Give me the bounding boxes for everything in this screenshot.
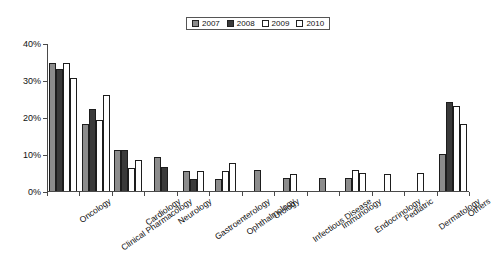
bar-2009-endocrinology bbox=[352, 170, 359, 191]
legend-label-2010: 2010 bbox=[306, 19, 324, 28]
bar-group bbox=[177, 44, 209, 191]
x-axis-line bbox=[47, 191, 469, 192]
bar-2008-cardiology bbox=[121, 150, 128, 191]
bar-2007-neurology bbox=[154, 157, 161, 191]
y-tick-label: 20% bbox=[23, 114, 41, 123]
bar-2007-others bbox=[439, 154, 446, 191]
bar-2007-urology bbox=[254, 170, 261, 191]
y-tick-label: 30% bbox=[23, 77, 41, 86]
bar-2009-infectious-disease bbox=[290, 174, 297, 191]
bar-2010-clinical-pharmacology bbox=[103, 95, 110, 191]
bar-2008-oncology bbox=[56, 69, 63, 191]
bar-group bbox=[209, 44, 241, 191]
bar-group bbox=[47, 44, 79, 191]
bar-2010-cardiology bbox=[135, 160, 142, 191]
bar-2007-cardiology bbox=[114, 150, 121, 191]
bar-group bbox=[79, 44, 111, 191]
bar-2010-dermatology bbox=[417, 173, 424, 191]
bar-group bbox=[112, 44, 144, 191]
x-label-oncology: Oncology bbox=[78, 196, 113, 225]
bar-group bbox=[307, 44, 339, 191]
white-fill-swatch bbox=[296, 20, 303, 27]
bar-2007-immunology bbox=[319, 178, 326, 191]
legend-entry-2009: 2009 bbox=[262, 19, 290, 28]
bar-2007-infectious-disease bbox=[283, 178, 290, 191]
bar-2010-oncology bbox=[70, 78, 77, 191]
bar-2009-cardiology bbox=[128, 168, 135, 191]
bar-2010-ophthalmology bbox=[229, 163, 236, 191]
legend-label-2009: 2009 bbox=[272, 19, 290, 28]
bar-2009-pediatric bbox=[384, 174, 391, 191]
bar-2007-ophthalmology bbox=[215, 179, 222, 191]
bar-2010-gastroenterology bbox=[197, 171, 204, 191]
bar-2009-oncology bbox=[63, 63, 70, 191]
bar-group bbox=[144, 44, 176, 191]
plot-area: 0%10%20%30%40% bbox=[47, 44, 469, 192]
bar-group bbox=[274, 44, 306, 191]
bar-2007-gastroenterology bbox=[183, 171, 190, 191]
bar-2010-endocrinology bbox=[359, 173, 366, 191]
dark-fill-swatch bbox=[227, 20, 234, 27]
legend-entry-2010: 2010 bbox=[296, 19, 324, 28]
x-axis-category-labels: OncologyClinical PharmacologyCardiologyN… bbox=[47, 196, 487, 279]
bar-2007-endocrinology bbox=[345, 178, 352, 191]
y-tick-label: 0% bbox=[28, 188, 41, 197]
white-fill-swatch bbox=[262, 20, 269, 27]
y-tick-label: 40% bbox=[23, 40, 41, 49]
bar-2008-neurology bbox=[161, 167, 168, 191]
bar-group bbox=[437, 44, 469, 191]
bar-2009-ophthalmology bbox=[222, 171, 229, 191]
gray-fill-swatch bbox=[192, 20, 199, 27]
bar-2008-others bbox=[446, 102, 453, 191]
legend-entry-2007: 2007 bbox=[192, 19, 220, 28]
bar-2010-others bbox=[460, 124, 467, 191]
y-tick-label: 10% bbox=[23, 151, 41, 160]
legend-label-2007: 2007 bbox=[202, 19, 220, 28]
bar-group bbox=[372, 44, 404, 191]
bar-group bbox=[339, 44, 371, 191]
bar-2007-oncology bbox=[49, 63, 56, 191]
legend-label-2008: 2008 bbox=[237, 19, 255, 28]
bar-2007-clinical-pharmacology bbox=[82, 124, 89, 191]
chart-legend: 2007 2008 2009 2010 bbox=[186, 17, 330, 30]
bar-2009-others bbox=[453, 106, 460, 191]
bar-group bbox=[242, 44, 274, 191]
bar-group bbox=[404, 44, 436, 191]
legend-entry-2008: 2008 bbox=[227, 19, 255, 28]
bar-2008-gastroenterology bbox=[190, 179, 197, 191]
bar-2009-clinical-pharmacology bbox=[96, 120, 103, 191]
bar-2008-clinical-pharmacology bbox=[89, 109, 96, 191]
